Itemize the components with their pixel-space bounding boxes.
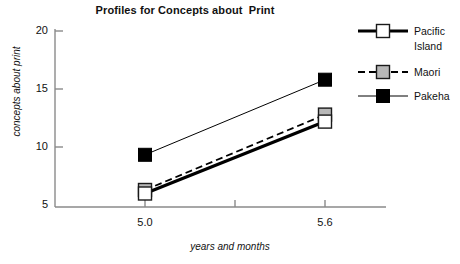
legend-key-maori [358,66,408,79]
y-axis-ticks [55,31,63,147]
legend-key-pakeha [358,90,408,103]
x-axis-ticks [145,200,325,207]
legend-key-pacific-island [358,25,408,38]
series-pacific-island [139,115,332,200]
chart-figure: Profiles for Concepts about Print concep… [0,0,460,264]
series-pakeha [139,73,332,161]
plot-area [0,0,460,264]
axis-spines [55,29,386,207]
